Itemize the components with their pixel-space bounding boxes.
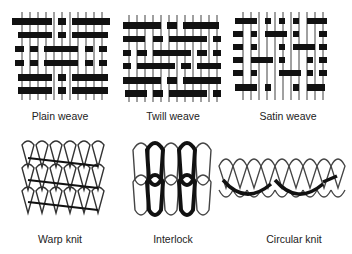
satin-weave-diagram-icon [225,0,352,110]
circular-knit-diagram-icon [215,130,352,230]
panel-warp-knit: Warp knit [0,130,120,254]
panel-twill-weave: Twill weave [115,0,235,130]
panel-interlock: Interlock [115,130,230,254]
panel-label: Warp knit [5,233,115,245]
panel-satin-weave: Satin weave [225,0,352,130]
interlock-diagram-icon [115,130,230,230]
panel-circular-knit: Circular knit [215,130,352,254]
panel-label: Plain weave [5,110,115,122]
panel-label: Interlock [118,233,228,245]
panel-label: Circular knit [239,233,349,245]
panel-plain-weave: Plain weave [0,0,120,130]
twill-weave-diagram-icon [115,0,235,110]
warp-knit-diagram-icon [0,130,120,230]
panel-label: Twill weave [118,110,228,122]
plain-weave-diagram-icon [0,0,120,110]
panel-label: Satin weave [233,110,343,122]
